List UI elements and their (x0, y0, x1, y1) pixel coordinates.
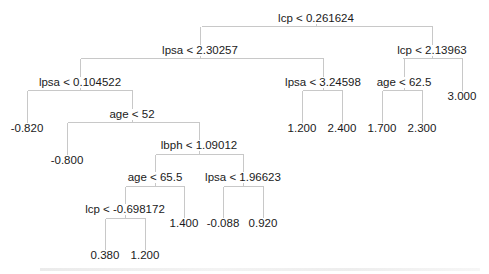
leaf-value-label: -0.800 (51, 155, 84, 167)
leaf-value-label: 1.700 (368, 123, 397, 135)
split-node-label: age < 52 (109, 109, 154, 121)
leaf-value-label: 1.400 (170, 218, 199, 230)
leaf-value-label: 2.400 (328, 123, 357, 135)
split-node-label: lpsa < 3.24598 (285, 77, 361, 89)
split-node-label: lpsa < 1.96623 (205, 172, 281, 184)
split-node-label: lpsa < 0.104522 (39, 77, 121, 89)
leaf-value-label: 0.920 (249, 218, 278, 230)
leaf-value-label: 3.000 (448, 91, 477, 103)
split-node-label: lcp < 2.13963 (397, 45, 466, 57)
split-node-label: age < 62.5 (377, 77, 432, 89)
tree-edges (0, 0, 489, 274)
leaf-value-label: 1.200 (288, 123, 317, 135)
split-node-label: lcp < 0.261624 (278, 13, 354, 25)
leaf-value-label: -0.088 (207, 218, 240, 230)
faint-caption-strip (40, 268, 480, 271)
leaf-value-label: 2.300 (408, 123, 437, 135)
split-node-label: lcp < -0.698172 (85, 204, 165, 216)
leaf-value-label: -0.820 (11, 123, 44, 135)
leaf-value-label: 0.380 (91, 250, 120, 262)
split-node-label: age < 65.5 (128, 172, 183, 184)
leaf-value-label: 1.200 (131, 250, 160, 262)
split-node-label: lbph < 1.09012 (161, 140, 237, 152)
split-node-label: lpsa < 2.30257 (162, 45, 238, 57)
